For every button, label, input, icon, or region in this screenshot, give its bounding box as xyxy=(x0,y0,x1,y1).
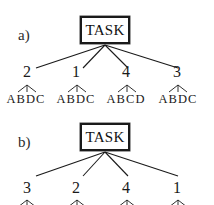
letter-group-a-3: ABCD xyxy=(100,93,152,106)
panel-b-leaf-numbers: 3 2 4 1 xyxy=(0,180,214,200)
panel-a: a) TASK 2 1 4 3 xyxy=(0,0,214,110)
leaf-number-a-2[interactable]: 1 xyxy=(64,64,88,80)
task-decomposition-figure: a) TASK 2 1 4 3 xyxy=(0,0,214,205)
panel-b: b) TASK 3 2 4 1 xyxy=(0,110,214,205)
fan-mark-icon-b-1 xyxy=(14,199,40,205)
leaf-number-a-4[interactable]: 3 xyxy=(165,64,189,80)
task-box-a-label: TASK xyxy=(85,23,124,38)
panel-a-letter-groups: ABDC ABDC ABCD ABDC xyxy=(0,93,214,107)
leaf-number-a-1[interactable]: 2 xyxy=(15,64,39,80)
leaf-number-b-1[interactable]: 3 xyxy=(15,180,39,196)
panel-a-leaf-numbers: 2 1 4 3 xyxy=(0,64,214,84)
fan-mark-icon-b-3 xyxy=(114,199,140,205)
leaf-number-b-3[interactable]: 4 xyxy=(114,180,138,196)
letter-group-a-1: ABDC xyxy=(0,93,52,106)
letter-group-a-2: ABDC xyxy=(50,93,102,106)
fan-mark-icon-b-2 xyxy=(64,199,90,205)
leaf-number-a-3[interactable]: 4 xyxy=(114,64,138,80)
panel-b-fan-marks xyxy=(0,199,214,205)
panel-b-label: b) xyxy=(18,135,31,150)
task-box-b-label: TASK xyxy=(85,130,124,145)
letter-group-a-4: ABDC xyxy=(152,93,204,106)
task-box-a[interactable]: TASK xyxy=(80,16,130,44)
fan-mark-icon-b-4 xyxy=(165,199,191,205)
panel-a-label: a) xyxy=(18,28,30,43)
task-box-b[interactable]: TASK xyxy=(80,123,130,151)
leaf-number-b-2[interactable]: 2 xyxy=(64,180,88,196)
leaf-number-b-4[interactable]: 1 xyxy=(165,180,189,196)
